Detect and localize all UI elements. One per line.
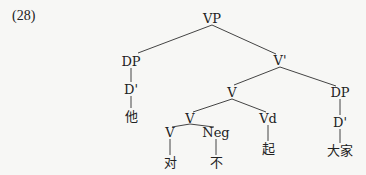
node-vbar: V' — [274, 54, 287, 67]
node-v-leaf: V — [165, 126, 174, 139]
leaf-dajia: 大家 — [327, 144, 353, 157]
node-vp: VP — [203, 12, 221, 25]
node-dbar-left: D' — [124, 83, 138, 96]
leaf-ta: 他 — [125, 110, 138, 123]
tree-branches — [0, 0, 366, 175]
leaf-qi: 起 — [262, 142, 275, 155]
node-neg: Neg — [202, 126, 229, 139]
node-vd: Vd — [259, 112, 277, 125]
node-dp-right: DP — [330, 86, 349, 99]
leaf-bu: 不 — [210, 156, 223, 169]
node-dbar-right: D' — [333, 116, 347, 129]
leaf-dui: 对 — [164, 156, 177, 169]
node-v-mid: V — [227, 86, 236, 99]
node-dp-left: DP — [121, 55, 140, 68]
node-v-low: V — [185, 112, 194, 125]
